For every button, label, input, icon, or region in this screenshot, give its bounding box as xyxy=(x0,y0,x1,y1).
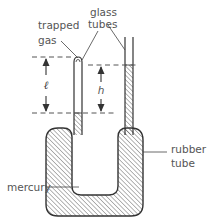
height-symbol: h xyxy=(98,84,105,96)
left-glass-tube xyxy=(74,57,82,135)
length-symbol: ℓ xyxy=(44,79,49,92)
svg-text:rubber: rubber xyxy=(171,143,207,155)
svg-text:glass: glass xyxy=(90,6,117,18)
label-trapped-gas: trapped gas xyxy=(38,19,79,58)
svg-text:gas: gas xyxy=(38,34,57,46)
svg-text:trapped: trapped xyxy=(38,19,79,31)
label-rubber-tube: rubber tube xyxy=(143,143,207,169)
gas-law-apparatus-diagram: ℓ h trapped gas glass tubes rubber tube … xyxy=(0,0,210,222)
glass-tubes-leader-left xyxy=(82,31,98,60)
height-dimension: h xyxy=(98,66,105,112)
trapped-gas-leader xyxy=(61,41,78,58)
right-glass-tube xyxy=(125,37,133,135)
rubber-tube xyxy=(46,128,143,216)
svg-text:tube: tube xyxy=(171,157,195,169)
label-glass-tubes: glass tubes xyxy=(82,6,125,60)
svg-text:tubes: tubes xyxy=(88,18,117,30)
svg-text:mercury: mercury xyxy=(7,181,51,193)
length-dimension: ℓ xyxy=(43,58,50,112)
